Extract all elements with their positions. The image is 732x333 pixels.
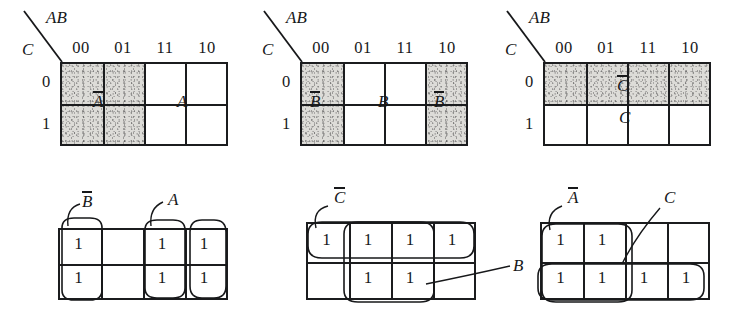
region-label-c: C: [619, 108, 630, 128]
cell-r1c0: [302, 104, 343, 144]
group-label-c: C: [664, 188, 675, 208]
axis-label-c: C: [22, 40, 33, 60]
axis-label-ab: AB: [286, 8, 307, 28]
axis-label-ab: AB: [46, 8, 67, 28]
col-header-10: 10: [426, 38, 468, 58]
col-header-11: 11: [144, 38, 186, 58]
axis-label-ab: AB: [529, 8, 550, 28]
group-overlays: [50, 186, 250, 310]
overbar-b: B: [82, 192, 92, 212]
overbar-c: C: [334, 188, 345, 208]
col-header-00: 00: [543, 38, 585, 58]
row-header-0: 0: [519, 72, 539, 92]
col-header-00: 00: [60, 38, 102, 58]
group-label-a-not: A: [568, 188, 578, 208]
overbar-c: C: [617, 76, 628, 96]
leader-line-a: [151, 202, 163, 226]
region-label-a: A: [177, 92, 187, 112]
group-oval-c-not: [308, 222, 474, 258]
cell-r1c1: [103, 104, 144, 144]
grid-hline-1: [62, 104, 226, 106]
cell-r1c3: [425, 104, 466, 144]
region-label-b-not-right: B: [434, 92, 444, 112]
group-overlays: [530, 184, 732, 308]
overbar-a: A: [568, 188, 578, 208]
col-header-11: 11: [384, 38, 426, 58]
group-oval-b-not: [62, 218, 102, 300]
group-label-b-not: B: [82, 192, 92, 212]
grid-hline-1: [545, 104, 709, 106]
figure-canvas: AB C 00 01 11 10 0 1 A A AB C 00 01 11 1…: [0, 0, 732, 333]
leader-line-c-not: [315, 206, 328, 228]
axis-label-c: C: [505, 40, 516, 60]
leader-line-c: [622, 208, 660, 264]
row-header-1: 1: [36, 114, 56, 134]
overbar-a: A: [93, 92, 103, 112]
row-header-0: 0: [276, 72, 296, 92]
col-header-01: 01: [102, 38, 144, 58]
col-header-00: 00: [300, 38, 342, 58]
row-header-1: 1: [519, 114, 539, 134]
cell-r0c1: [103, 64, 144, 104]
leader-line-b-not: [68, 204, 80, 226]
kmap-grid: [60, 62, 228, 146]
region-label-a-not: A: [93, 92, 103, 112]
group-oval-a: [145, 220, 185, 298]
region-label-c-not: C: [617, 76, 628, 96]
col-header-10: 10: [669, 38, 711, 58]
axis-label-c: C: [262, 40, 273, 60]
overbar-b-left: B: [310, 92, 320, 112]
group-oval-a-not: [542, 224, 632, 302]
group-label-a: A: [168, 190, 178, 210]
group-oval-c: [538, 264, 704, 300]
group-oval-b: [344, 222, 434, 302]
col-header-11: 11: [627, 38, 669, 58]
group-label-c-not: C: [334, 188, 345, 208]
leader-line-b: [426, 266, 510, 284]
region-label-b-not-left: B: [310, 92, 320, 112]
overbar-b-right: B: [434, 92, 444, 112]
row-header-1: 1: [276, 114, 296, 134]
region-label-b: B: [378, 92, 388, 112]
row-header-0: 0: [36, 72, 56, 92]
cell-r0c3: [425, 64, 466, 104]
col-header-01: 01: [585, 38, 627, 58]
col-header-01: 01: [342, 38, 384, 58]
col-header-10: 10: [186, 38, 228, 58]
cell-r0c0: [302, 64, 343, 104]
group-label-b: B: [513, 256, 523, 276]
group-oval-a-wrap: [190, 220, 226, 298]
leader-line-a-not: [549, 206, 562, 230]
